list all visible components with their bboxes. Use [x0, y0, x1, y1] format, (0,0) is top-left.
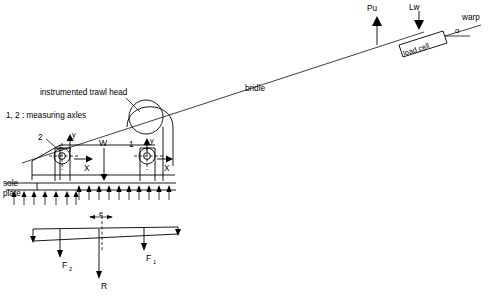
pressure-arrow-group-right — [76, 185, 171, 200]
axle-1-number-label: 1 — [129, 140, 134, 149]
axle-2-y-label: y — [72, 130, 76, 139]
pressure-arrow — [31, 191, 36, 205]
trawl-head-diagram: bridle load cell α warp Lw Pu — [0, 0, 494, 297]
pressure-arrow — [116, 185, 121, 200]
pressure-arrow — [96, 185, 101, 200]
measuring-axle-2: 2 y X — [38, 130, 93, 173]
beam-right-arrowhead — [175, 229, 181, 236]
pressure-arrow — [166, 185, 171, 200]
pressure-arrow — [76, 185, 81, 200]
load-cell-label: load cell — [402, 41, 431, 58]
r-arrowhead — [96, 271, 102, 279]
ground-pressure-arrows — [11, 185, 171, 205]
pressure-arrow — [136, 185, 141, 200]
pressure-arrow-group-left — [11, 191, 78, 205]
bridle-group: bridle — [22, 32, 424, 163]
diagram-canvas: bridle load cell α warp Lw Pu — [0, 0, 494, 297]
pressure-arrow — [86, 185, 91, 200]
axle-1-y-label: y — [150, 136, 154, 145]
free-body-beam-diagram: e F 2 F 1 R — [30, 209, 181, 291]
f1-arrowhead — [141, 243, 147, 251]
axle-1-x-label: X — [164, 164, 170, 173]
pressure-arrow — [64, 191, 69, 205]
f2-arrowhead — [57, 250, 63, 258]
pressure-arrow — [126, 185, 131, 200]
r-label: R — [101, 281, 107, 291]
f2-label: F — [62, 260, 67, 270]
pressure-arrow — [156, 185, 161, 200]
pu-label: Pu — [367, 4, 377, 13]
pu-arrowhead — [372, 16, 382, 26]
measuring-axles-legend: 1, 2 : measuring axles — [6, 111, 86, 120]
bridle-line — [22, 32, 424, 163]
callout-labels: instrumented trawl head 1, 2 : measuring… — [6, 88, 140, 120]
eccentricity-right-arrowhead — [107, 215, 113, 219]
trawl-head-leader-line — [126, 98, 140, 112]
pressure-arrow — [106, 185, 111, 200]
warp-label: warp — [461, 13, 480, 22]
f1-subscript: 1 — [153, 259, 156, 265]
sole-label: sole — [3, 179, 18, 188]
axle-1-x-arrowhead — [166, 156, 173, 163]
towing-ring — [129, 100, 163, 134]
alpha-angle-label: α — [455, 26, 460, 35]
instrumented-trawl-head-label: instrumented trawl head — [40, 88, 128, 97]
pressure-arrow — [53, 191, 58, 205]
beam-bottom-edge — [33, 234, 178, 241]
weight-label: W — [99, 138, 108, 148]
lw-arrowhead — [414, 20, 424, 30]
measuring-axle-1: 1 y X — [129, 136, 173, 173]
pressure-arrow — [21, 191, 26, 205]
f2-subscript: 2 — [69, 266, 72, 272]
eccentricity-left-arrowhead — [89, 215, 95, 219]
f1-label: F — [146, 253, 151, 263]
load-cell-assembly: load cell α warp Lw Pu — [367, 3, 481, 58]
beam-top-edge — [33, 227, 178, 229]
warp-line — [445, 25, 481, 36]
bridle-label: bridle — [245, 84, 265, 93]
axle-2-number-label: 2 — [38, 133, 43, 142]
pressure-arrow — [146, 185, 151, 200]
pressure-arrow — [42, 191, 47, 205]
beam-left-arrowhead — [30, 236, 36, 243]
eccentricity-label: e — [99, 209, 103, 218]
weight-arrowhead — [101, 174, 108, 181]
axle-2-x-arrowhead — [86, 156, 93, 163]
towing-hoop-outer — [127, 107, 173, 127]
axle-2-x-label: X — [84, 164, 90, 173]
lw-label: Lw — [409, 3, 420, 12]
pressure-arrow — [73, 191, 78, 205]
